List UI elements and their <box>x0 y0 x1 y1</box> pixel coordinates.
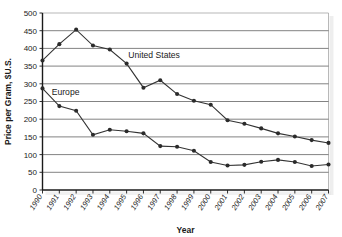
data-point-europe-1999 <box>192 149 196 153</box>
ytick-label-250: 250 <box>24 97 38 106</box>
xtick-label-1995: 1995 <box>112 192 129 212</box>
xtick-label-2005: 2005 <box>279 192 297 213</box>
y-axis-title: Price per Gram, $U.S. <box>3 58 13 145</box>
data-point-europe-2002 <box>242 163 246 167</box>
data-point-europe-1993 <box>91 133 95 137</box>
data-point-united-states-2005 <box>293 135 297 139</box>
line-chart: 0501001502002503003504004505001990199119… <box>0 0 342 237</box>
data-point-europe-1994 <box>108 128 112 132</box>
data-point-europe-1991 <box>57 104 61 108</box>
xtick-label-1994: 1994 <box>95 193 112 212</box>
data-point-united-states-2000 <box>209 103 213 107</box>
xtick-label-2002: 2002 <box>229 192 247 213</box>
xtick-label-2001: 2001 <box>212 193 229 213</box>
data-point-united-states-1992 <box>74 28 78 32</box>
data-point-united-states-1996 <box>141 86 145 90</box>
ytick-label-450: 450 <box>24 27 38 36</box>
data-point-united-states-1997 <box>158 78 162 82</box>
xtick-label-1999: 1999 <box>179 192 196 212</box>
xtick-label-1996: 1996 <box>129 192 146 212</box>
data-point-europe-1996 <box>141 131 145 135</box>
xtick-label-1998: 1998 <box>162 192 179 212</box>
data-point-europe-1990 <box>40 86 44 90</box>
xtick-label-2000: 2000 <box>195 192 213 213</box>
data-point-united-states-1993 <box>91 44 95 48</box>
ytick-label-500: 500 <box>24 9 38 18</box>
data-point-united-states-1990 <box>40 58 44 62</box>
ytick-label-200: 200 <box>24 115 38 124</box>
data-point-europe-2006 <box>310 164 314 168</box>
data-point-europe-1995 <box>125 129 129 133</box>
data-point-europe-2004 <box>276 158 280 162</box>
data-point-europe-2003 <box>259 160 263 164</box>
data-point-united-states-1995 <box>125 62 129 66</box>
data-point-united-states-2002 <box>242 122 246 126</box>
xtick-label-2004: 2004 <box>263 193 280 213</box>
data-point-united-states-2001 <box>226 118 230 122</box>
data-point-united-states-2007 <box>326 141 330 145</box>
series-annotation-europe: Europe <box>52 87 80 97</box>
data-point-europe-1997 <box>158 144 162 148</box>
data-point-europe-1998 <box>175 145 179 149</box>
data-point-united-states-2006 <box>310 138 314 142</box>
data-point-united-states-1998 <box>175 92 179 96</box>
xtick-label-2003: 2003 <box>246 192 264 213</box>
data-point-united-states-1999 <box>192 99 196 103</box>
plot-shadow-right <box>330 16 334 195</box>
xtick-label-1992: 1992 <box>61 192 78 212</box>
ytick-label-150: 150 <box>24 133 38 142</box>
series-annotation-united-states: United States <box>128 50 180 60</box>
data-point-united-states-1994 <box>108 47 112 51</box>
data-point-europe-1992 <box>74 109 78 113</box>
data-point-united-states-2003 <box>259 126 263 130</box>
ytick-label-50: 50 <box>28 168 37 177</box>
xtick-label-1990: 1990 <box>28 192 45 212</box>
ytick-label-100: 100 <box>24 151 38 160</box>
data-point-europe-2005 <box>293 160 297 164</box>
ytick-label-400: 400 <box>24 44 38 53</box>
xtick-label-2007: 2007 <box>313 192 331 213</box>
data-point-united-states-2004 <box>276 131 280 135</box>
x-axis-title: Year <box>177 225 196 235</box>
ytick-label-350: 350 <box>24 62 38 71</box>
xtick-label-1991: 1991 <box>44 193 61 212</box>
chart-figure: 0501001502002503003504004505001990199119… <box>0 0 342 237</box>
data-point-europe-2001 <box>226 164 230 168</box>
ytick-label-300: 300 <box>24 80 38 89</box>
data-point-europe-2000 <box>209 160 213 164</box>
data-point-united-states-1991 <box>57 42 61 46</box>
xtick-label-2006: 2006 <box>296 192 314 213</box>
xtick-label-1993: 1993 <box>78 192 95 212</box>
xtick-label-1997: 1997 <box>145 192 162 212</box>
data-point-europe-2007 <box>326 162 330 166</box>
